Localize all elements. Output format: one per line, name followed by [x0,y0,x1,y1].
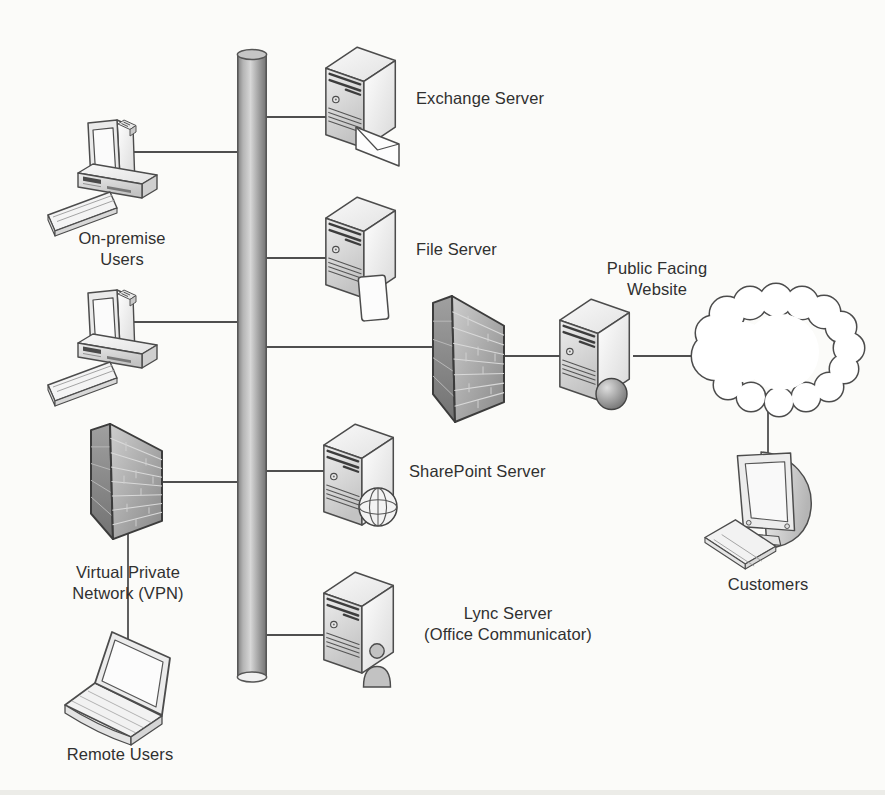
page-scan-edge [0,790,885,795]
sharepoint-server-icon [324,424,397,526]
exchange-server-icon [326,47,399,166]
label-remote-users: Remote Users [30,744,210,765]
label-public-facing-website: Public Facing Website [577,258,737,300]
vpn-firewall-icon [91,424,162,539]
globe-wireframe-icon [359,488,397,526]
on-premise-pc-2-icon [48,290,157,406]
cloud-icon [692,284,864,416]
on-premise-pc-1-icon [48,120,157,236]
label-vpn: Virtual Private Network (VPN) [33,562,223,604]
label-sharepoint-server: SharePoint Server [409,461,599,482]
label-customers: Customers [688,574,848,595]
label-exchange-server: Exchange Server [416,88,586,109]
file-server-icon [326,197,395,321]
sphere-globe-icon [596,379,627,410]
perimeter-firewall-icon [433,296,504,422]
document-icon [358,275,389,321]
label-file-server: File Server [416,239,566,260]
lync-server-icon [324,572,393,687]
label-lync-server: Lync Server (Office Communicator) [398,603,618,645]
customers-monitor-icon [705,452,811,569]
network-diagram: On-premise Users Exchange Server File Se… [0,0,885,795]
label-on-premise-users: On-premise Users [32,228,212,270]
diagram-canvas [0,0,885,795]
remote-users-laptop-icon [65,632,170,745]
network-backbone-pipe [237,50,267,683]
public-facing-website-server-icon [560,299,629,409]
